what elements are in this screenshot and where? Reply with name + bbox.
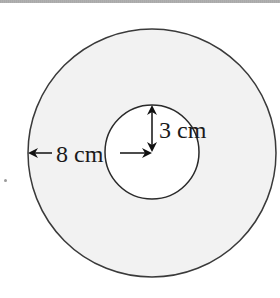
annulus-diagram: 8 cm 3 cm: [0, 0, 280, 298]
inner-radius-label: 3 cm: [159, 117, 207, 143]
outer-radius-label: 8 cm: [56, 141, 104, 167]
